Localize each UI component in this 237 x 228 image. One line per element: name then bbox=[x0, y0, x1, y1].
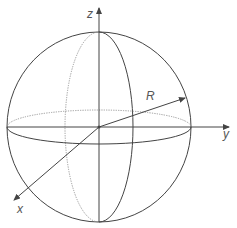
origin-point bbox=[98, 126, 101, 129]
z-axis-label: z bbox=[87, 8, 93, 20]
sphere-figure bbox=[0, 0, 237, 228]
x-axis-label: x bbox=[17, 203, 23, 215]
radius-vector bbox=[99, 98, 185, 127]
radius-label: R bbox=[146, 90, 155, 102]
sphere-diagram: z y x R bbox=[0, 0, 237, 228]
y-axis-label: y bbox=[223, 128, 229, 140]
